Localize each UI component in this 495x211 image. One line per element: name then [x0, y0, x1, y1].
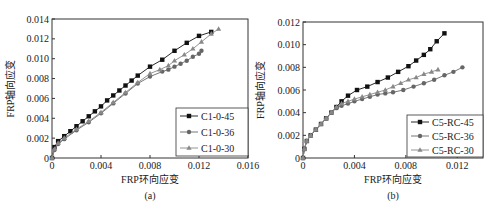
legend-label: C1-0-36	[201, 127, 234, 138]
y-tick-label: 0	[295, 153, 300, 164]
y-tick-label: 0.008	[27, 73, 50, 84]
x-tick-label: 0.008	[395, 160, 418, 171]
panel-label: (b)	[387, 190, 399, 202]
figure: 00.0040.0080.0120.01600.0020.0040.0060.0…	[0, 0, 495, 211]
y-axis-label: FRP轴向应变	[4, 60, 16, 118]
legend-label: C5-RC-30	[432, 145, 474, 156]
chart-panel-a: 00.0040.0080.0120.01600.0020.0040.0060.0…	[4, 14, 259, 203]
chart-panel-b: 00.0040.0080.01200.0020.0040.0060.0080.0…	[254, 17, 483, 203]
y-tick-label: 0.014	[27, 14, 50, 25]
y-tick-label: 0.002	[27, 133, 50, 144]
legend-label: C5-RC-45	[432, 117, 474, 128]
x-tick-label: 0	[50, 160, 55, 171]
legend-label: C1-0-30	[201, 143, 234, 154]
legend: C1-0-45C1-0-36C1-0-30	[176, 108, 248, 156]
y-tick-label: 0.004	[27, 113, 50, 124]
x-axis-label: FRP环向应变	[364, 173, 422, 185]
y-tick-label: 0.004	[278, 107, 301, 118]
x-tick-label: 0.004	[343, 160, 366, 171]
y-tick-label: 0.010	[27, 53, 50, 64]
y-tick-label: 0.006	[278, 85, 301, 96]
y-tick-label: 0.012	[27, 33, 50, 44]
panel-label: (a)	[144, 190, 155, 202]
y-axis-label: FRP轴向应变	[254, 61, 266, 119]
x-tick-label: 0.004	[90, 160, 113, 171]
y-tick-label: 0.006	[27, 93, 50, 104]
legend-label: C1-0-45	[201, 111, 234, 122]
x-tick-label: 0.012	[446, 160, 469, 171]
x-tick-label: 0.012	[188, 160, 211, 171]
charts-canvas: 00.0040.0080.0120.01600.0020.0040.0060.0…	[0, 0, 495, 211]
x-tick-label: 0.016	[237, 160, 260, 171]
y-tick-label: 0.010	[278, 39, 301, 50]
y-tick-label: 0	[44, 153, 49, 164]
legend: C5-RC-45C5-RC-36C5-RC-30	[407, 115, 483, 157]
x-tick-label: 0	[301, 160, 306, 171]
legend-label: C5-RC-36	[432, 131, 474, 142]
y-tick-label: 0.002	[278, 130, 301, 141]
x-axis-label: FRP环向应变	[121, 173, 179, 185]
y-tick-label: 0.012	[278, 17, 301, 28]
y-tick-label: 0.008	[278, 62, 301, 73]
x-tick-label: 0.008	[139, 160, 162, 171]
